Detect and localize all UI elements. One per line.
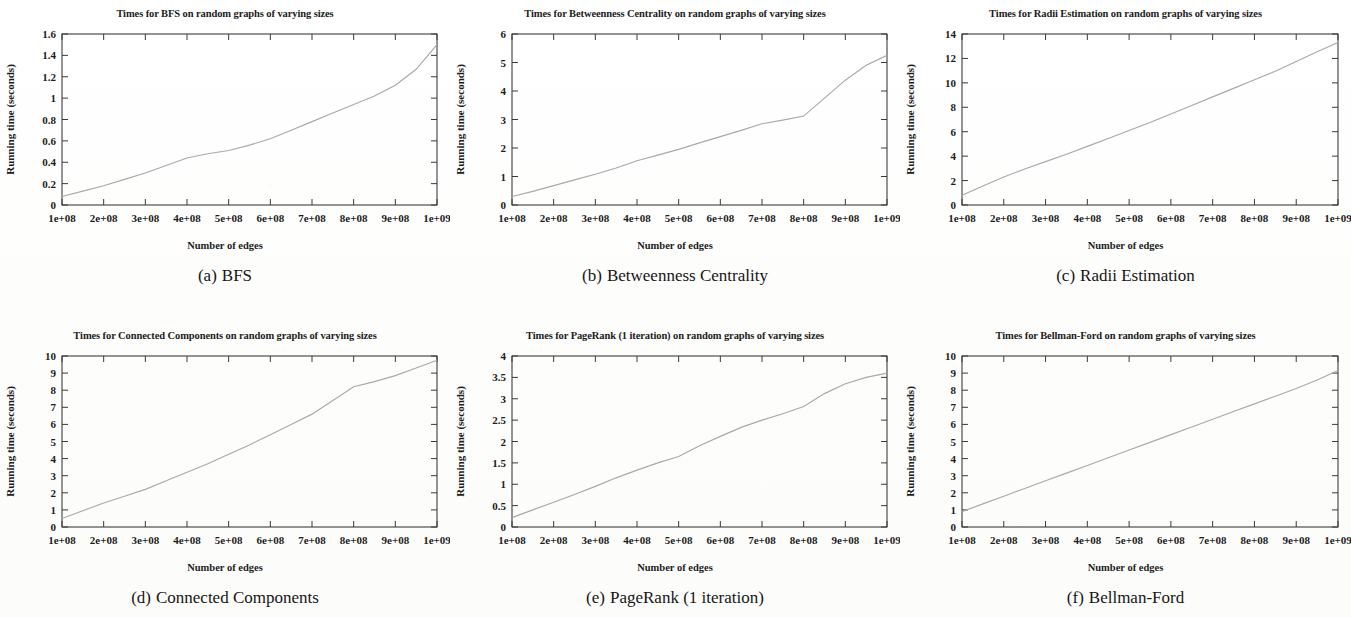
y-tick-label: 1.5: [492, 457, 506, 469]
plot-svg: Running time (seconds)0123456789101e+082…: [0, 344, 450, 569]
caption-letter: (e): [586, 588, 610, 607]
x-tick-label: 2e+08: [90, 212, 118, 224]
x-axis-label: Number of edges: [0, 562, 450, 573]
y-tick-label: 1: [51, 92, 57, 104]
data-series-line: [62, 360, 437, 518]
data-series-line: [512, 55, 887, 196]
figure-caption: (c)Radii Estimation: [900, 266, 1351, 286]
x-tick-label: 1e+09: [423, 534, 450, 546]
x-tick-label: 5e+08: [215, 212, 243, 224]
x-tick-label: 6e+08: [257, 534, 285, 546]
x-tick-label: 4e+08: [623, 212, 651, 224]
plot-frame: [512, 34, 887, 205]
x-tick-label: 6e+08: [1157, 212, 1185, 224]
x-tick-label: 8e+08: [790, 534, 818, 546]
figure-caption: (f)Bellman-Ford: [900, 588, 1351, 608]
caption-letter: (b): [582, 266, 607, 285]
y-tick-label: 2: [51, 487, 57, 499]
x-tick-label: 4e+08: [173, 534, 201, 546]
x-tick-label: 9e+08: [382, 212, 410, 224]
y-tick-label: 0.4: [42, 156, 56, 168]
x-tick-label: 1e+09: [873, 534, 900, 546]
caption-text: BFS: [222, 266, 252, 285]
x-tick-label: 7e+08: [748, 212, 776, 224]
y-tick-label: 10: [45, 350, 57, 362]
plot-svg: Running time (seconds)01234561e+082e+083…: [450, 22, 900, 247]
y-tick-label: 1: [501, 478, 507, 490]
x-tick-label: 7e+08: [1199, 534, 1227, 546]
y-tick-label: 7: [951, 401, 957, 413]
x-tick-label: 6e+08: [707, 212, 735, 224]
y-tick-label: 8: [951, 101, 957, 113]
plot-area-connected-components: Running time (seconds)0123456789101e+082…: [0, 344, 450, 569]
plot-svg: Running time (seconds)00.511.522.533.541…: [450, 344, 900, 569]
y-tick-label: 8: [951, 384, 957, 396]
figure-panel-pagerank: Times for PageRank (1 iteration) on rand…: [450, 308, 900, 617]
y-tick-label: 5: [51, 436, 57, 448]
x-tick-label: 4e+08: [173, 212, 201, 224]
x-tick-label: 9e+08: [1282, 212, 1310, 224]
plot-area-bellman-ford: Running time (seconds)0123456789101e+082…: [900, 344, 1351, 569]
y-axis-label: Running time (seconds): [454, 64, 467, 175]
x-tick-label: 3e+08: [582, 212, 610, 224]
y-tick-label: 0: [501, 199, 507, 211]
y-tick-label: 4: [951, 453, 957, 465]
y-tick-label: 3: [951, 470, 957, 482]
plot-svg: Running time (seconds)00.20.40.60.811.21…: [0, 22, 450, 247]
x-tick-label: 9e+08: [1282, 534, 1310, 546]
y-tick-label: 3: [501, 393, 507, 405]
y-tick-label: 3: [51, 470, 57, 482]
x-tick-label: 7e+08: [298, 212, 326, 224]
figure-panel-connected-components: Times for Connected Components on random…: [0, 308, 450, 617]
caption-letter: (c): [1056, 266, 1080, 285]
figure-caption: (a)BFS: [0, 266, 450, 286]
x-tick-label: 1e+08: [498, 534, 526, 546]
x-tick-label: 5e+08: [1115, 534, 1143, 546]
y-tick-label: 1: [501, 171, 507, 183]
caption-letter: (f): [1067, 588, 1089, 607]
x-tick-label: 3e+08: [582, 534, 610, 546]
y-tick-label: 3: [501, 114, 507, 126]
y-tick-label: 5: [951, 436, 957, 448]
x-tick-label: 6e+08: [1157, 534, 1185, 546]
y-tick-label: 5: [501, 57, 507, 69]
data-series-line: [962, 43, 1338, 196]
x-tick-label: 3e+08: [132, 212, 160, 224]
y-tick-label: 1: [51, 504, 57, 516]
figure-panel-bfs: Times for BFS on random graphs of varyin…: [0, 0, 450, 308]
plot-area-pagerank: Running time (seconds)00.511.522.533.541…: [450, 344, 900, 569]
caption-text: Connected Components: [156, 588, 319, 607]
plot-area-betweenness-centrality: Running time (seconds)01234561e+082e+083…: [450, 22, 900, 247]
y-tick-label: 6: [951, 126, 957, 138]
x-tick-label: 5e+08: [215, 534, 243, 546]
x-tick-label: 2e+08: [540, 534, 568, 546]
plot-svg: Running time (seconds)024681012141e+082e…: [900, 22, 1351, 247]
y-axis-label: Running time (seconds): [904, 386, 917, 497]
x-tick-label: 4e+08: [623, 534, 651, 546]
x-tick-label: 6e+08: [257, 212, 285, 224]
y-tick-label: 2: [501, 436, 507, 448]
x-tick-label: 8e+08: [340, 212, 368, 224]
y-tick-label: 2: [501, 142, 507, 154]
y-axis-label: Running time (seconds): [4, 64, 17, 175]
y-tick-label: 0: [951, 521, 957, 533]
x-tick-label: 5e+08: [665, 212, 693, 224]
y-tick-label: 0.5: [492, 500, 506, 512]
x-tick-label: 5e+08: [1115, 212, 1143, 224]
plot-frame: [62, 34, 437, 205]
plot-area-radii-estimation: Running time (seconds)024681012141e+082e…: [900, 22, 1351, 247]
plot-frame: [962, 356, 1338, 527]
x-tick-label: 4e+08: [1074, 212, 1102, 224]
y-tick-label: 9: [51, 367, 57, 379]
x-tick-label: 3e+08: [1032, 212, 1060, 224]
y-tick-label: 0: [51, 199, 57, 211]
x-tick-label: 3e+08: [132, 534, 160, 546]
figure-caption: (b)Betweenness Centrality: [450, 266, 900, 286]
figure-panel-bellman-ford: Times for Bellman-Ford on random graphs …: [900, 308, 1351, 617]
x-tick-label: 1e+08: [948, 212, 976, 224]
caption-text: Betweenness Centrality: [607, 266, 768, 285]
y-tick-label: 0: [51, 521, 57, 533]
x-tick-label: 2e+08: [990, 534, 1018, 546]
y-tick-label: 1.2: [42, 71, 56, 83]
y-tick-label: 0: [951, 199, 957, 211]
